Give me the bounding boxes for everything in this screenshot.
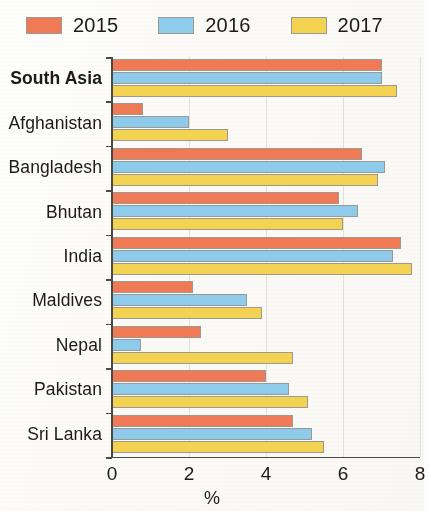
bar-india-2017 bbox=[112, 263, 412, 275]
gridline-8 bbox=[420, 57, 421, 457]
category-label-bangladesh: Bangladesh bbox=[0, 157, 102, 178]
bar-south-asia-2016 bbox=[112, 72, 382, 84]
x-tick-label-2: 2 bbox=[169, 463, 209, 485]
legend-label-2017: 2017 bbox=[338, 14, 383, 37]
x-axis-line bbox=[111, 457, 420, 459]
bar-afghanistan-2017 bbox=[112, 129, 228, 141]
bar-india-2016 bbox=[112, 250, 393, 262]
bar-nepal-2015 bbox=[112, 326, 201, 338]
x-axis-title: % bbox=[0, 488, 424, 509]
bar-nepal-2017 bbox=[112, 352, 293, 364]
category-label-india: India bbox=[0, 246, 102, 267]
bar-maldives-2016 bbox=[112, 294, 247, 306]
bar-south-asia-2017 bbox=[112, 85, 397, 97]
category-label-pakistan: Pakistan bbox=[0, 379, 102, 400]
bar-bangladesh-2016 bbox=[112, 161, 385, 173]
bar-sri-lanka-2016 bbox=[112, 428, 312, 440]
category-label-south-asia: South Asia bbox=[0, 68, 102, 89]
x-tick-label-4: 4 bbox=[246, 463, 286, 485]
bar-bangladesh-2017 bbox=[112, 174, 378, 186]
bar-group-bhutan bbox=[112, 190, 420, 234]
bar-pakistan-2016 bbox=[112, 383, 289, 395]
bar-group-sri-lanka bbox=[112, 413, 420, 457]
legend-item-2016: 2016 bbox=[158, 14, 250, 37]
legend-label-2016: 2016 bbox=[205, 14, 250, 37]
legend-swatch-2017-icon bbox=[291, 17, 327, 34]
bar-group-pakistan bbox=[112, 368, 420, 412]
bar-pakistan-2017 bbox=[112, 396, 308, 408]
x-tick-label-8: 8 bbox=[400, 463, 429, 485]
bar-bhutan-2015 bbox=[112, 192, 339, 204]
bar-group-nepal bbox=[112, 324, 420, 368]
category-label-bhutan: Bhutan bbox=[0, 202, 102, 223]
legend-label-2015: 2015 bbox=[73, 14, 118, 37]
bar-sri-lanka-2017 bbox=[112, 441, 324, 453]
plot-area bbox=[112, 57, 420, 457]
bar-bangladesh-2015 bbox=[112, 148, 362, 160]
bar-bhutan-2017 bbox=[112, 218, 343, 230]
bar-nepal-2016 bbox=[112, 339, 141, 351]
legend-swatch-2016-icon bbox=[158, 17, 194, 34]
bar-afghanistan-2016 bbox=[112, 116, 189, 128]
legend-swatch-2015-icon bbox=[26, 17, 62, 34]
category-label-sri-lanka: Sri Lanka bbox=[0, 424, 102, 445]
bar-bhutan-2016 bbox=[112, 205, 358, 217]
bar-south-asia-2015 bbox=[112, 59, 382, 71]
bar-group-south-asia bbox=[112, 57, 420, 101]
bar-group-bangladesh bbox=[112, 146, 420, 190]
bar-maldives-2015 bbox=[112, 281, 193, 293]
bar-group-afghanistan bbox=[112, 101, 420, 145]
legend-item-2017: 2017 bbox=[291, 14, 383, 37]
bar-afghanistan-2015 bbox=[112, 103, 143, 115]
x-tick-label-0: 0 bbox=[92, 463, 132, 485]
bar-group-india bbox=[112, 235, 420, 279]
chart-legend: 2015 2016 2017 bbox=[26, 10, 383, 40]
category-label-afghanistan: Afghanistan bbox=[0, 113, 102, 134]
y-axis-line bbox=[111, 57, 113, 457]
bar-pakistan-2015 bbox=[112, 370, 266, 382]
x-tick-label-6: 6 bbox=[323, 463, 363, 485]
category-label-nepal: Nepal bbox=[0, 335, 102, 356]
bar-maldives-2017 bbox=[112, 307, 262, 319]
bar-sri-lanka-2015 bbox=[112, 415, 293, 427]
category-label-maldives: Maldives bbox=[0, 290, 102, 311]
legend-item-2015: 2015 bbox=[26, 14, 118, 37]
bar-group-maldives bbox=[112, 279, 420, 323]
bar-india-2015 bbox=[112, 237, 401, 249]
